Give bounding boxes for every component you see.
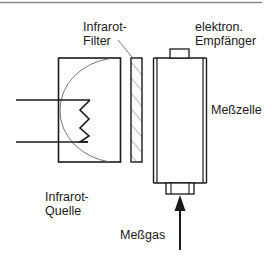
diagram-canvas: Infrarot- Filter elektron. Empfänger Meß… [0,0,273,262]
measuring-cell [154,49,207,194]
cell-label: Meßzelle [211,103,262,117]
source-label-line1: Infrarot- [45,190,89,204]
electronic-receiver [170,49,189,58]
filter-plate [131,58,142,162]
receiver-label: elektron. Empfänger [195,20,256,48]
gas-label: Meßgas [120,228,165,242]
gas-flow-arrow-icon [175,195,186,250]
infrared-filter [118,40,142,162]
source-housing [59,58,121,162]
gas-inlet-fitting [166,183,194,194]
filter-label-line1: Infrarot- [83,20,127,34]
filter-label: Infrarot- Filter [83,20,127,48]
reflector-arc [60,59,110,163]
filter-label-line2: Filter [83,34,127,48]
source-label: Infrarot- Quelle [45,190,89,218]
infrared-source [16,58,121,162]
heating-coil-icon [80,100,90,142]
receiver-label-line1: elektron. [195,20,256,34]
source-label-line2: Quelle [45,204,89,218]
arrow-head [175,195,186,211]
receiver-label-line2: Empfänger [195,34,256,48]
